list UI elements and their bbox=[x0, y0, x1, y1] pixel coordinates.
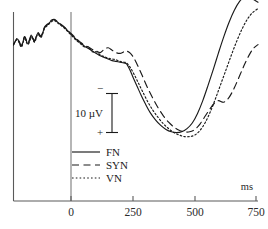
erp-chart-figure: 0 250 500 750 ms − + 10 µV FN bbox=[0, 0, 268, 229]
negative-polarity-label: − bbox=[97, 82, 103, 94]
legend-item-syn: SYN bbox=[72, 159, 128, 171]
scale-bar-label: 10 µV bbox=[75, 107, 103, 119]
trace-fn bbox=[14, 0, 259, 133]
xtick-label-0: 0 bbox=[68, 206, 74, 218]
trace-vn bbox=[14, 9, 259, 137]
xtick-label-750: 750 bbox=[247, 206, 265, 218]
erp-waveform-plot: 0 250 500 750 ms − + 10 µV FN bbox=[0, 0, 268, 229]
x-axis-ticks bbox=[71, 196, 256, 201]
legend-label-fn: FN bbox=[106, 146, 120, 158]
positive-polarity-label: + bbox=[97, 126, 103, 138]
legend-item-fn: FN bbox=[72, 146, 120, 158]
legend: FN SYN VN bbox=[72, 146, 128, 184]
waveform-traces bbox=[14, 0, 259, 137]
legend-label-syn: SYN bbox=[106, 159, 128, 171]
xtick-label-250: 250 bbox=[124, 206, 142, 218]
xtick-label-500: 500 bbox=[186, 206, 204, 218]
legend-label-vn: VN bbox=[106, 172, 122, 184]
x-axis-unit-label: ms bbox=[241, 181, 253, 192]
legend-item-vn: VN bbox=[72, 172, 122, 184]
amplitude-scale-bar: − + 10 µV bbox=[75, 82, 118, 138]
trace-syn bbox=[14, 19, 259, 132]
